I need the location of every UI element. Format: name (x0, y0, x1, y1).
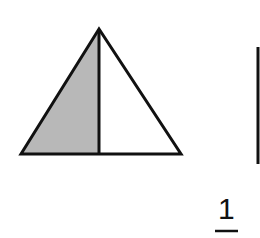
fraction-numerator: 1 (218, 194, 235, 224)
